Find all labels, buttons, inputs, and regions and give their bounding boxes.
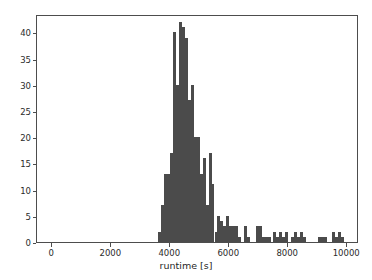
histogram-bar <box>303 237 306 242</box>
histogram-bar <box>247 237 250 242</box>
y-tick-mark <box>33 33 37 34</box>
y-tick-label: 20 <box>20 134 31 143</box>
y-tick-label: 40 <box>20 29 31 38</box>
x-tick-mark <box>51 243 52 247</box>
x-tick-label: 0 <box>49 249 54 258</box>
y-tick-label: 35 <box>20 55 31 64</box>
x-tick-label: 8000 <box>276 249 298 258</box>
y-tick-label: 5 <box>26 213 31 222</box>
x-tick-label: 2000 <box>99 249 121 258</box>
histogram-bar <box>285 232 288 242</box>
plot-area <box>36 15 358 243</box>
y-tick-mark <box>33 138 37 139</box>
x-tick-label: 4000 <box>158 249 180 258</box>
histogram-bar <box>268 237 271 242</box>
x-tick-label: 10000 <box>333 249 360 258</box>
y-tick-label: 30 <box>20 82 31 91</box>
x-tick-label: 6000 <box>217 249 239 258</box>
x-tick-mark <box>110 243 111 247</box>
x-tick-mark <box>169 243 170 247</box>
y-tick-mark <box>33 164 37 165</box>
x-tick-mark <box>346 243 347 247</box>
y-tick-mark <box>33 191 37 192</box>
x-axis-label: runtime [s] <box>0 261 372 271</box>
y-tick-mark <box>33 86 37 87</box>
histogram-bar <box>341 237 344 242</box>
y-tick-mark <box>33 60 37 61</box>
x-tick-mark <box>228 243 229 247</box>
y-tick-mark <box>33 243 37 244</box>
y-tick-label: 10 <box>20 186 31 195</box>
y-tick-label: 0 <box>26 239 31 248</box>
y-tick-label: 25 <box>20 108 31 117</box>
x-tick-mark <box>287 243 288 247</box>
y-tick-mark <box>33 217 37 218</box>
histogram-bars <box>37 16 357 242</box>
y-tick-label: 15 <box>20 160 31 169</box>
histogram-figure: 0510152025303540 0200040006000800010000 … <box>0 0 372 280</box>
histogram-bar <box>238 237 241 242</box>
histogram-bar <box>324 237 327 242</box>
y-tick-mark <box>33 112 37 113</box>
